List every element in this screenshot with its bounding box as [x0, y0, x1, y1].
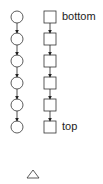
circle-node — [11, 121, 23, 133]
square-node — [44, 99, 56, 111]
circle-chain — [11, 11, 23, 133]
square-node — [44, 55, 56, 67]
square-node — [44, 77, 56, 89]
square-node — [44, 11, 56, 23]
label-top: top — [62, 121, 77, 132]
circle-node — [11, 33, 23, 45]
circle-node — [11, 99, 23, 111]
square-node — [44, 121, 56, 133]
triangle-icon — [27, 170, 39, 178]
circle-node — [11, 11, 23, 23]
circle-node — [11, 55, 23, 67]
square-chain — [44, 11, 56, 133]
circle-node — [11, 77, 23, 89]
label-bottom: bottom — [62, 11, 96, 22]
square-node — [44, 33, 56, 45]
stack-diagram — [0, 0, 103, 184]
